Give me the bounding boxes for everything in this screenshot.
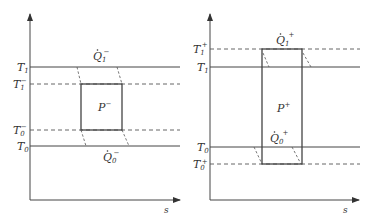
right-heat-out-label: Q0+ (270, 129, 289, 146)
left-diagram: s T1 T1− T0− T0 Q1− (13, 14, 180, 215)
left-heat-out-connector (122, 130, 129, 146)
left-x-axis-label: s (164, 205, 169, 215)
right-heat-in-label: Q1+ (276, 31, 295, 48)
right-heat-out-dot (274, 131, 276, 133)
left-T0-minus-label: T0− (13, 123, 27, 138)
right-heat-in-dot (280, 33, 282, 35)
left-heat-out-label: Q0− (103, 149, 120, 165)
right-heat-out-connector (292, 147, 301, 164)
left-heat-in-dot (97, 49, 99, 51)
right-T0-plus-label: T0+ (193, 158, 208, 172)
left-T0-label: T0 (17, 140, 29, 154)
right-heat-in-connector (263, 53, 269, 67)
ts-diagram-pair: s T1 T1− T0− T0 Q1− (0, 0, 375, 223)
right-power-label: P+ (276, 101, 290, 115)
right-heat-in-connector (303, 53, 311, 67)
left-power-label: P− (97, 100, 111, 114)
left-heat-in-label: Q1− (93, 48, 110, 64)
left-heat-out-dot (107, 150, 109, 152)
right-diagram: s T1+ T1 T0 T0+ Q1+ (193, 14, 360, 215)
left-heat-out-connector (81, 130, 86, 146)
left-T1-minus-label: T1− (13, 77, 27, 92)
right-T1-plus-label: T1+ (193, 41, 208, 57)
left-heat-in-connector (77, 67, 81, 84)
left-T1-label: T1 (17, 61, 29, 75)
right-heat-out-connector (254, 147, 262, 164)
right-x-axis-label: s (343, 205, 348, 215)
left-heat-in-connector (117, 67, 122, 84)
right-T0-label: T0 (197, 141, 209, 155)
right-T1-label: T1 (197, 61, 209, 75)
